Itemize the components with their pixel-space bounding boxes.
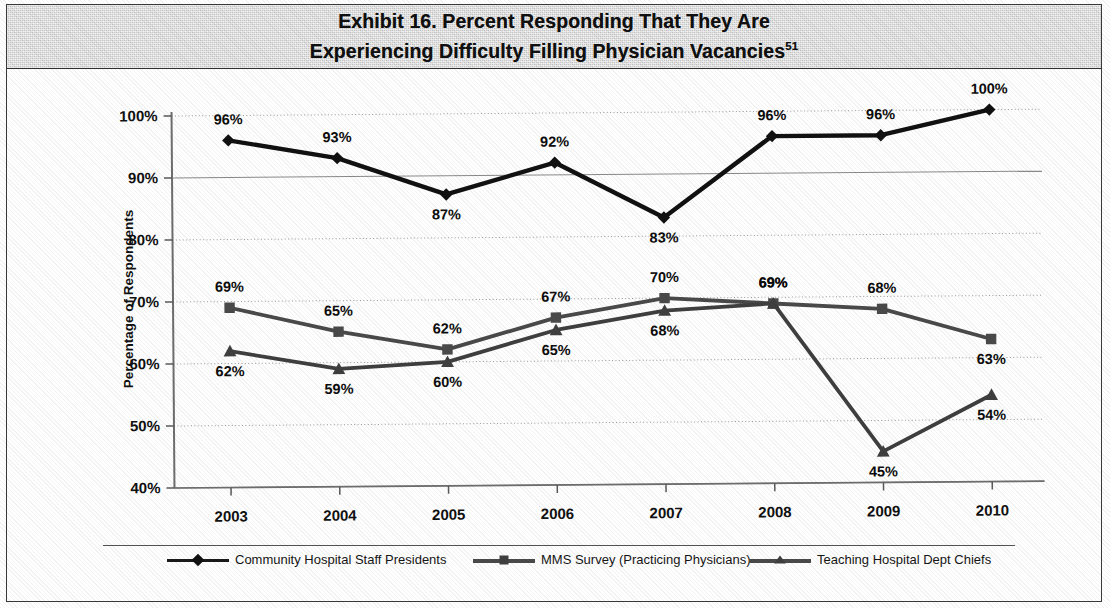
data-point-marker [659, 293, 669, 303]
data-point-label: 45% [869, 463, 898, 479]
series-line-0 [228, 110, 990, 221]
data-point-marker [986, 334, 996, 344]
data-point-label: 60% [433, 374, 462, 390]
data-point-marker [222, 134, 234, 146]
y-axis-tick-label: 100% [119, 107, 158, 124]
data-point-label: 96% [866, 106, 895, 122]
legend-separator [103, 545, 1015, 546]
title-line-2: Experiencing Difficulty Filling Physicia… [310, 40, 785, 62]
series-line-2 [230, 302, 992, 457]
data-point-marker [877, 304, 887, 314]
x-axis-line [174, 481, 1044, 488]
chart-legend: Community Hospital Staff Presidents MMS … [7, 535, 1101, 597]
data-point-label: 93% [322, 129, 351, 145]
x-axis-tick-label: 2010 [976, 501, 1010, 518]
data-point-label: 69% [215, 279, 244, 295]
data-point-label: 100% [971, 80, 1008, 96]
legend-items: Community Hospital Staff Presidents MMS … [7, 553, 1101, 583]
data-point-label: 65% [542, 342, 571, 358]
title-footnote-marker: 51 [785, 40, 798, 52]
data-point-marker [551, 312, 561, 322]
data-point-label: 87% [432, 206, 461, 222]
x-axis-tick-label: 2008 [758, 503, 792, 520]
data-point-marker [442, 344, 452, 354]
data-point-marker [440, 188, 452, 200]
data-point-label: 96% [757, 107, 786, 123]
legend-item-teaching-hospital-dept-chiefs[interactable]: Teaching Hospital Dept Chiefs [749, 553, 991, 567]
legend-swatch-triangle-icon [749, 554, 811, 566]
line-chart: 40%50%60%70%80%90%100%200320042005200620… [7, 70, 1101, 530]
data-point-label: 69% [759, 274, 788, 290]
data-point-label: 62% [433, 320, 462, 336]
y-axis-line [172, 112, 175, 488]
data-point-label: 68% [867, 280, 896, 296]
data-point-label: 67% [541, 288, 570, 304]
gridline-70 [173, 295, 1043, 302]
legend-label: Teaching Hospital Dept Chiefs [817, 553, 991, 567]
data-point-label: 59% [324, 381, 353, 397]
gridline-80 [173, 233, 1043, 240]
title-line-1: Exhibit 16. Percent Responding That They… [338, 10, 770, 32]
data-point-marker [224, 303, 234, 313]
gridline-90 [172, 171, 1042, 178]
data-point-label: 83% [649, 229, 678, 245]
x-axis-tick-label: 2003 [214, 507, 248, 524]
gridline-50 [174, 419, 1044, 426]
data-point-marker [331, 152, 343, 164]
legend-label: Community Hospital Staff Presidents [235, 553, 446, 567]
data-point-marker [333, 326, 343, 336]
chart-plot-area: 40%50%60%70%80%90%100%200320042005200620… [7, 70, 1101, 530]
data-point-label: 96% [214, 111, 243, 127]
y-axis-tick-label: 40% [130, 479, 160, 496]
x-axis-tick-label: 2007 [649, 504, 683, 521]
legend-label: MMS Survey (Practicing Physicians) [541, 553, 751, 567]
data-point-marker [983, 103, 995, 115]
legend-swatch-diamond-icon [167, 554, 229, 566]
data-point-marker [985, 388, 998, 400]
legend-item-community-hospital-staff-presidents[interactable]: Community Hospital Staff Presidents [167, 553, 446, 567]
data-point-label: 68% [650, 322, 679, 338]
data-point-label: 70% [650, 269, 679, 285]
x-axis-tick-label: 2005 [432, 506, 466, 523]
gridline-100 [172, 109, 1042, 116]
data-point-label: 92% [540, 133, 569, 149]
x-axis-tick-label: 2004 [323, 507, 357, 524]
page-title: Exhibit 16. Percent Responding That They… [270, 9, 838, 64]
y-axis-title: Percentage of Respondents [121, 210, 136, 389]
exhibit-title-bar: Exhibit 16. Percent Responding That They… [7, 5, 1101, 69]
x-axis-tick-label: 2009 [867, 502, 901, 519]
x-axis-tick-label: 2006 [541, 505, 575, 522]
data-point-label: 54% [977, 407, 1006, 423]
legend-item-mms-survey-practicing-physicians[interactable]: MMS Survey (Practicing Physicians) [473, 553, 751, 567]
data-point-label: 65% [324, 303, 353, 319]
data-point-label: 62% [216, 363, 245, 379]
data-point-marker [875, 129, 887, 141]
y-axis-tick-label: 90% [128, 169, 158, 186]
y-axis-tick-label: 50% [130, 417, 160, 434]
legend-swatch-square-icon [473, 554, 535, 566]
data-point-label: 63% [977, 351, 1006, 367]
exhibit-figure: Exhibit 16. Percent Responding That They… [0, 0, 1110, 608]
